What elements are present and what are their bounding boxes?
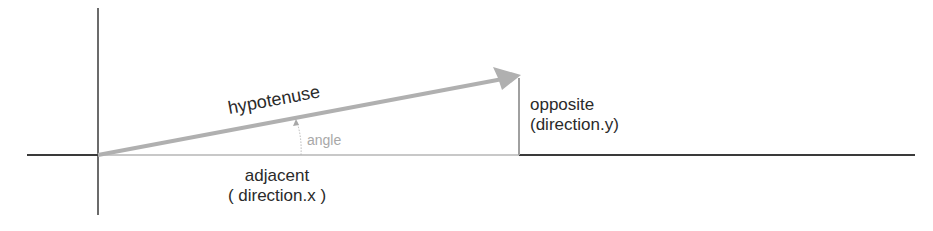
adjacent-label-line1: adjacent: [212, 166, 342, 186]
angle-arc: [297, 122, 301, 155]
opposite-label: opposite (direction.y): [530, 95, 619, 135]
adjacent-label: adjacent ( direction.x ): [212, 166, 342, 206]
opposite-label-line1: opposite: [530, 95, 619, 115]
triangle-diagram: [0, 0, 933, 231]
opposite-label-line2: (direction.y): [530, 115, 619, 135]
adjacent-label-line2: ( direction.x ): [212, 186, 342, 206]
angle-label: angle: [307, 130, 341, 150]
